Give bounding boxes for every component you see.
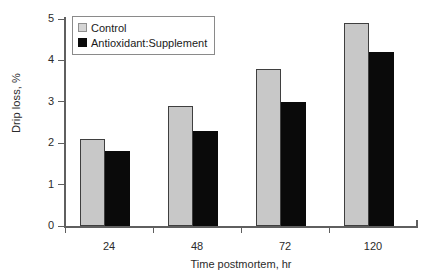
x-tick-label-48: 48	[162, 240, 232, 252]
x-tick-48	[153, 226, 154, 233]
legend-item-supplement: Antioxidant:Supplement	[78, 35, 207, 50]
y-tick-label-4: 4	[30, 54, 54, 65]
y-tick-0	[58, 226, 65, 227]
y-axis-title: Drip loss, %	[10, 48, 22, 158]
x-tick-label-24: 24	[74, 240, 144, 252]
bar-control-120hr	[344, 23, 369, 226]
y-tick-label-0: 0	[30, 220, 54, 231]
x-axis-title: Time postmortem, hr	[65, 258, 417, 270]
legend-label-supplement: Antioxidant:Supplement	[91, 37, 207, 49]
legend-label-control: Control	[91, 22, 126, 34]
legend-item-control: Control	[78, 20, 207, 35]
bar-control-48hr	[168, 106, 193, 226]
bar-supplement-72hr	[281, 102, 306, 226]
drip-loss-bar-chart: Drip loss, % 012345 244872120 Time postm…	[0, 0, 429, 277]
x-tick-72	[241, 226, 242, 233]
y-tick-5	[58, 19, 65, 20]
bar-supplement-48hr	[193, 131, 218, 226]
y-tick-label-5: 5	[30, 13, 54, 24]
y-tick-1	[58, 184, 65, 185]
x-tick-label-72: 72	[250, 240, 320, 252]
y-tick-3	[58, 101, 65, 102]
y-tick-label-1: 1	[30, 179, 54, 190]
x-tick-120	[329, 226, 330, 233]
chart-legend: Control Antioxidant:Supplement	[72, 16, 215, 55]
y-tick-4	[58, 60, 65, 61]
x-tick-label-120: 120	[338, 240, 408, 252]
bar-control-24hr	[80, 139, 105, 226]
bar-supplement-120hr	[369, 52, 394, 226]
y-tick-label-2: 2	[30, 137, 54, 148]
legend-swatch-control	[78, 23, 87, 32]
y-tick-label-3: 3	[30, 96, 54, 107]
y-tick-2	[58, 143, 65, 144]
bar-control-72hr	[256, 69, 281, 226]
legend-swatch-supplement	[78, 38, 87, 47]
x-tick-origin	[65, 226, 66, 233]
bar-supplement-24hr	[105, 151, 130, 226]
